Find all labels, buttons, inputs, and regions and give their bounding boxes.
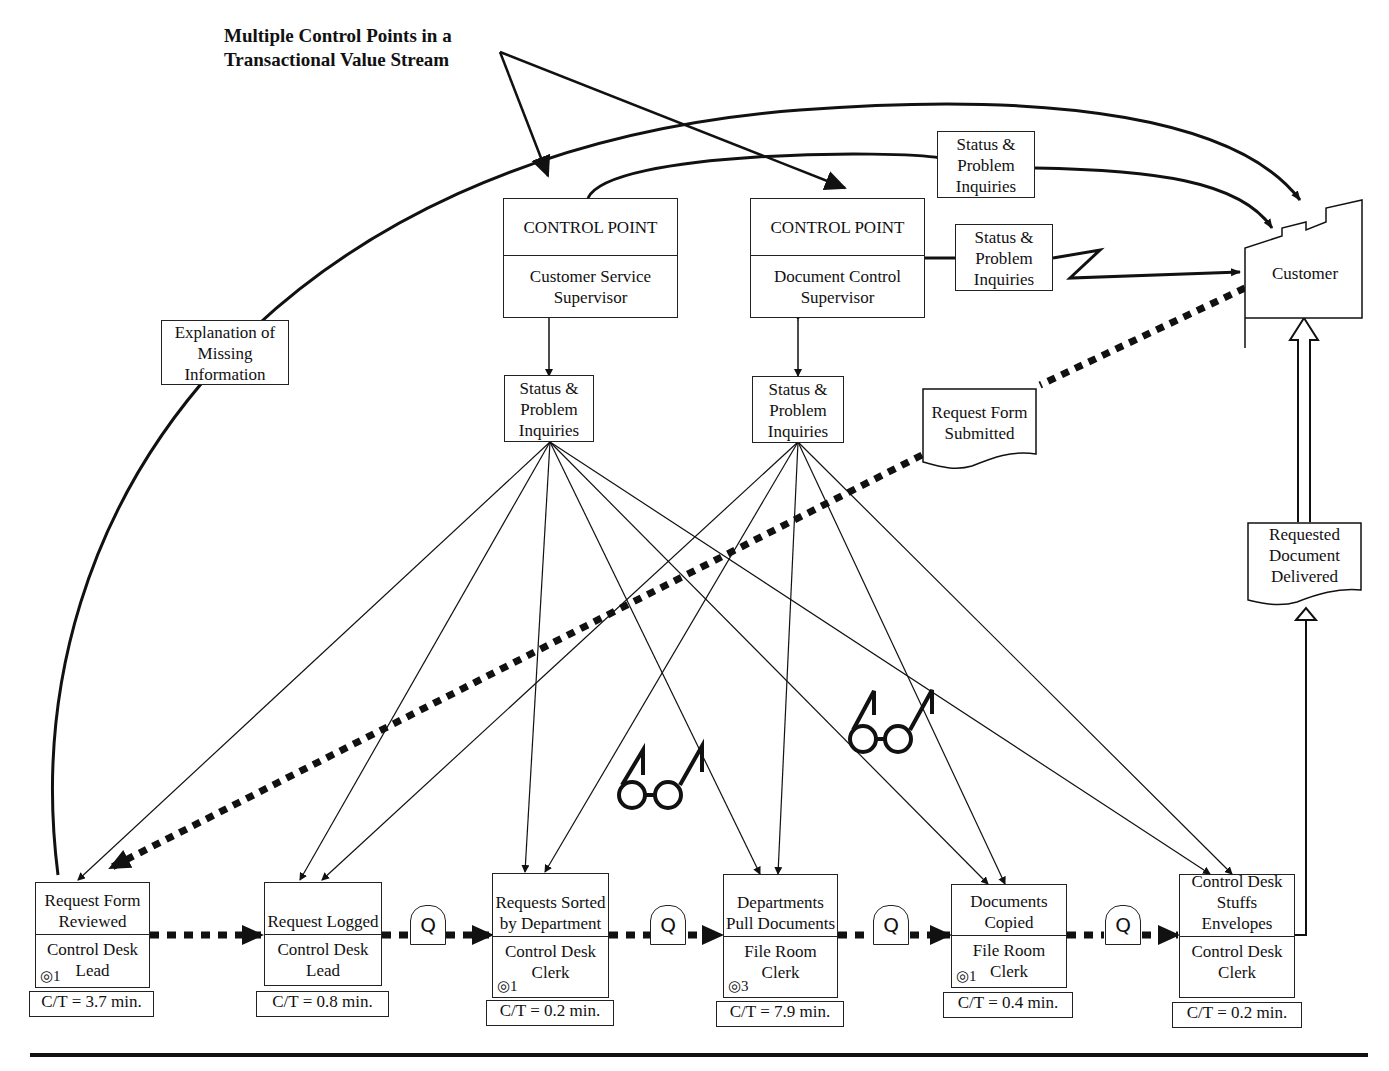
process-box: Request Logged Control Desk Lead — [264, 882, 382, 986]
cycle-time: C/T = 0.8 min. — [256, 991, 389, 1017]
glasses-icon — [619, 746, 702, 808]
process-box: Requests Sorted by Department Control De… — [492, 873, 609, 998]
request-form-submitted-doc: Request Form Submitted — [922, 388, 1037, 473]
cycle-time: C/T = 7.9 min. — [716, 1001, 844, 1027]
process-box: Request Form Reviewed Control Desk Lead … — [35, 882, 150, 988]
queue-icon: Q — [1105, 905, 1141, 945]
control-point-header: CONTROL POINT — [504, 199, 677, 256]
glasses-icon — [850, 690, 932, 752]
operator-icon: ◎1 — [497, 976, 518, 997]
status-inquiries-mid: Status & Problem Inquiries — [955, 224, 1053, 291]
control-point-document-control: CONTROL POINT Document Control Superviso… — [750, 198, 925, 318]
control-point-role: Customer Service Supervisor — [504, 256, 677, 308]
process-box: Control Desk Stuffs Envelopes Control De… — [1179, 874, 1295, 998]
status-inquiries-top: Status & Problem Inquiries — [937, 131, 1035, 198]
requested-document-delivered-doc: Requested Document Delivered — [1247, 522, 1362, 610]
cycle-time: C/T = 0.2 min. — [486, 1000, 614, 1026]
cycle-time: C/T = 0.2 min. — [1172, 1002, 1302, 1028]
control-point-role: Document Control Supervisor — [751, 256, 924, 308]
control-point-customer-service: CONTROL POINT Customer Service Superviso… — [503, 198, 678, 318]
diagram-title: Multiple Control Points in a Transaction… — [224, 24, 452, 72]
status-inquiries-cp1: Status & Problem Inquiries — [504, 375, 594, 442]
queue-icon: Q — [650, 905, 686, 945]
customer-label: Customer — [1250, 264, 1360, 284]
process-box: Departments Pull Documents File Room Cle… — [723, 874, 838, 998]
process-box: Documents Copied File Room Clerk ◎1 — [951, 884, 1067, 988]
queue-icon: Q — [873, 905, 909, 945]
operator-icon: ◎3 — [728, 976, 749, 997]
operator-icon: ◎1 — [956, 966, 977, 987]
cycle-time: C/T = 0.4 min. — [943, 992, 1073, 1018]
cycle-time: C/T = 3.7 min. — [29, 991, 154, 1017]
control-point-header: CONTROL POINT — [751, 199, 924, 256]
explanation-box: Explanation of Missing Information — [161, 320, 289, 385]
status-inquiries-cp2: Status & Problem Inquiries — [752, 376, 844, 443]
operator-icon: ◎1 — [40, 966, 61, 987]
queue-icon: Q — [410, 905, 446, 945]
